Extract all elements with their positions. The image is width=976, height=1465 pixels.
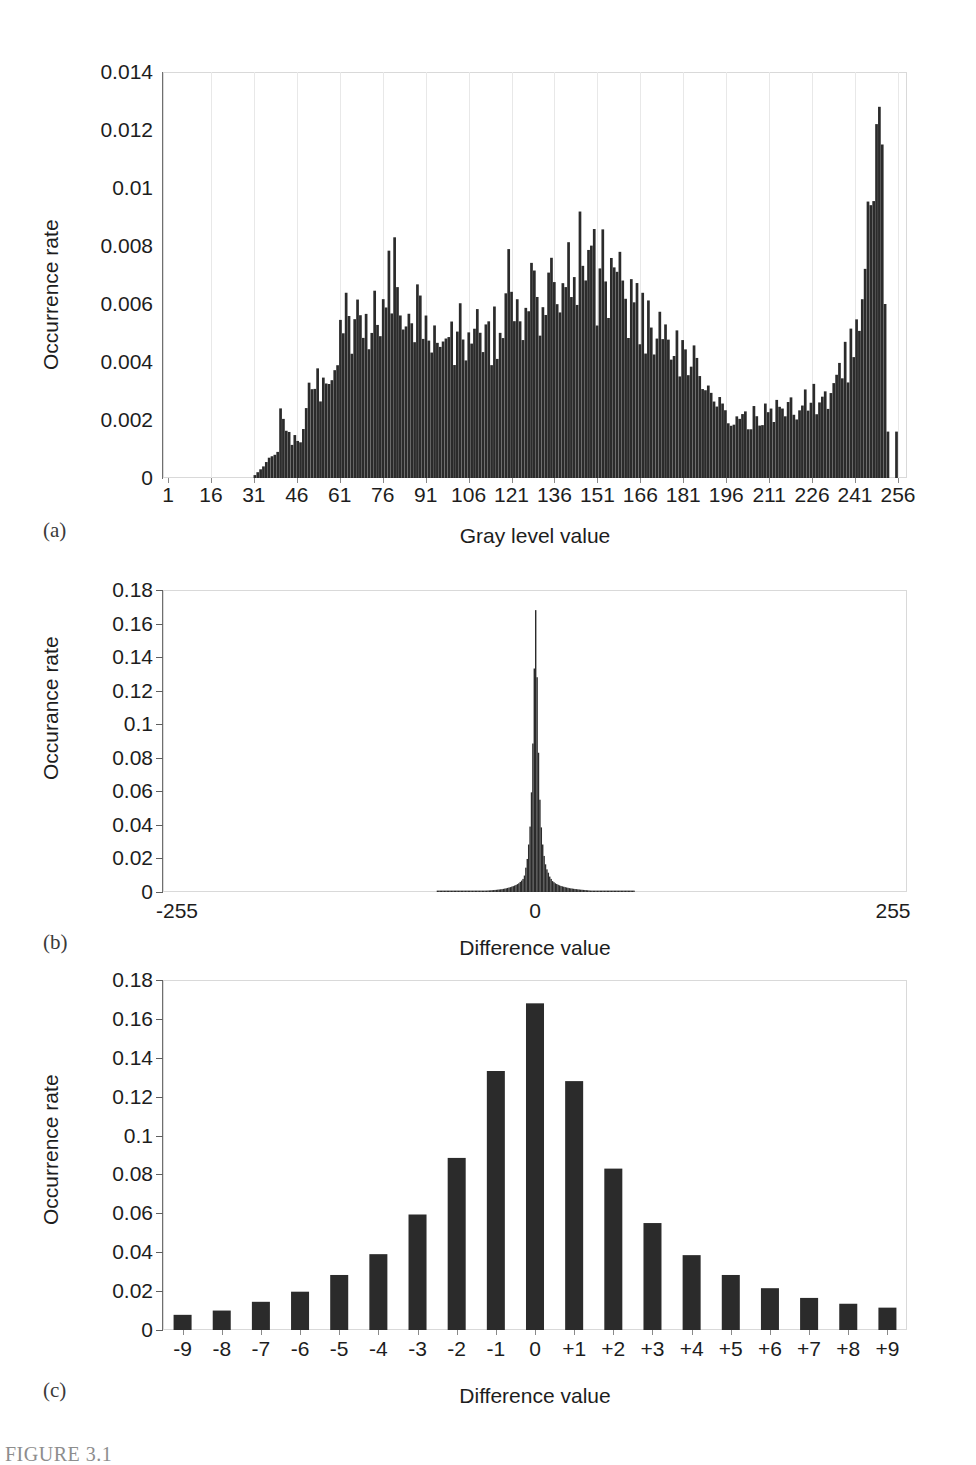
- ytick-label: 0.14: [45, 1047, 153, 1068]
- xtick-label: 256: [858, 484, 938, 505]
- panel-c-bars: [163, 980, 907, 1330]
- xtick-mark: [683, 478, 684, 483]
- ytick-mark: [156, 691, 163, 692]
- xtick-label: +9: [847, 1338, 927, 1359]
- xtick-mark: [855, 478, 856, 483]
- xtick-mark: [254, 478, 255, 483]
- ytick-label: 0.18: [45, 969, 153, 990]
- ytick-mark: [156, 1058, 163, 1059]
- panel-a-histogram: [163, 72, 907, 478]
- ytick-label: 0.02: [45, 1280, 153, 1301]
- panel-b-xlabel: Difference value: [363, 937, 707, 959]
- panel-c-xlabel: Difference value: [363, 1385, 707, 1407]
- xtick-mark: [535, 1330, 536, 1335]
- ytick-mark: [156, 1330, 163, 1331]
- ytick-label: 0.04: [45, 814, 153, 835]
- ytick-label: 0.01: [45, 177, 153, 198]
- xtick-mark: [211, 478, 212, 483]
- ytick-label: 0.008: [45, 235, 153, 256]
- xtick-mark: [652, 1330, 653, 1335]
- panel-a-tag: (a): [43, 520, 66, 541]
- xtick-mark: [574, 1330, 575, 1335]
- xtick-mark: [469, 478, 470, 483]
- ytick-label: 0.014: [45, 61, 153, 82]
- ytick-label: 0.08: [45, 747, 153, 768]
- xtick-mark: [769, 478, 770, 483]
- ytick-label: 0.18: [45, 579, 153, 600]
- ytick-label: 0.012: [45, 119, 153, 140]
- panel-b-histogram: [163, 590, 907, 892]
- xtick-mark: [848, 1330, 849, 1335]
- xtick-mark: [512, 478, 513, 483]
- ytick-label: 0: [45, 881, 153, 902]
- ytick-mark: [156, 1174, 163, 1175]
- xtick-mark: [809, 1330, 810, 1335]
- panel-c-tag: (c): [43, 1380, 66, 1401]
- xtick-mark: [770, 1330, 771, 1335]
- panel-c-y-axis: [162, 980, 163, 1331]
- ytick-label: 0.08: [45, 1163, 153, 1184]
- ytick-mark: [156, 1213, 163, 1214]
- ytick-label: 0: [45, 1319, 153, 1340]
- ytick-mark: [156, 758, 163, 759]
- ytick-label: 0.04: [45, 1241, 153, 1262]
- ytick-mark: [156, 791, 163, 792]
- ytick-mark: [156, 1097, 163, 1098]
- xtick-mark: [426, 478, 427, 483]
- ytick-mark: [156, 1291, 163, 1292]
- xtick-mark: [726, 478, 727, 483]
- ytick-label: 0.14: [45, 646, 153, 667]
- ytick-label: 0.02: [45, 847, 153, 868]
- ytick-mark: [156, 858, 163, 859]
- ytick-label: 0.002: [45, 409, 153, 430]
- xtick-mark: [339, 1330, 340, 1335]
- ytick-label: 0.12: [45, 680, 153, 701]
- xtick-mark: [457, 1330, 458, 1335]
- xtick-mark: [692, 1330, 693, 1335]
- xtick-mark: [261, 1330, 262, 1335]
- panel-a-xlabel: Gray level value: [363, 525, 707, 547]
- panel-b: Occurance rate 0.180.160.140.120.10.080.…: [0, 580, 976, 965]
- ytick-label: 0.12: [45, 1086, 153, 1107]
- ytick-label: 0.006: [45, 293, 153, 314]
- xtick-mark: [222, 1330, 223, 1335]
- panel-a: Occurrence rate 0.0140.0120.010.0080.006…: [0, 0, 976, 560]
- panel-a-y-axis: [162, 72, 163, 479]
- xtick-mark: [640, 478, 641, 483]
- ytick-label: 0.004: [45, 351, 153, 372]
- ytick-mark: [156, 724, 163, 725]
- xtick-mark: [183, 1330, 184, 1335]
- xtick-mark: [597, 478, 598, 483]
- ytick-mark: [156, 1136, 163, 1137]
- ytick-mark: [156, 624, 163, 625]
- ytick-mark: [156, 825, 163, 826]
- xtick-mark: [168, 478, 169, 483]
- xtick-mark: [898, 478, 899, 483]
- ytick-label: 0.06: [45, 780, 153, 801]
- xtick-mark: [297, 478, 298, 483]
- ytick-label: 0.16: [45, 1008, 153, 1029]
- xtick-mark: [378, 1330, 379, 1335]
- panel-b-tag: (b): [43, 932, 68, 953]
- ytick-label: 0.16: [45, 613, 153, 634]
- ytick-label: 0.06: [45, 1202, 153, 1223]
- ytick-label: 0.1: [45, 713, 153, 734]
- xtick-mark: [613, 1330, 614, 1335]
- xtick-mark: [340, 478, 341, 483]
- figure-caption: FIGURE 3.1: [5, 1443, 112, 1465]
- ytick-mark: [156, 657, 163, 658]
- xtick-label: 0: [495, 900, 575, 921]
- xtick-mark: [887, 1330, 888, 1335]
- ytick-mark: [156, 892, 163, 893]
- xtick-label: -255: [137, 900, 217, 921]
- panel-c: Occurrence rate 0.180.160.140.120.10.080…: [0, 960, 976, 1455]
- xtick-mark: [554, 478, 555, 483]
- xtick-mark: [731, 1330, 732, 1335]
- xtick-mark: [418, 1330, 419, 1335]
- xtick-mark: [383, 478, 384, 483]
- ytick-mark: [156, 980, 163, 981]
- xtick-mark: [812, 478, 813, 483]
- ytick-mark: [156, 590, 163, 591]
- panel-b-y-axis: [162, 590, 163, 893]
- xtick-mark: [300, 1330, 301, 1335]
